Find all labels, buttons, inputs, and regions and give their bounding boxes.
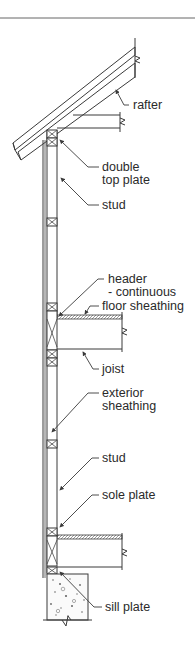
label-header-line1: header bbox=[108, 272, 147, 286]
label-joist: joist bbox=[101, 362, 125, 376]
wall-section-diagram: rafter double top plate stud header - co… bbox=[0, 0, 195, 662]
label-header-line2: - continuous bbox=[108, 285, 176, 299]
label-double-top-plate-line1: double bbox=[102, 160, 140, 174]
foundation bbox=[43, 574, 92, 626]
label-rafter: rafter bbox=[133, 98, 162, 112]
label-floor-sheathing: floor sheathing bbox=[102, 299, 184, 313]
label-sole-plate: sole plate bbox=[102, 488, 156, 502]
lower-floor bbox=[47, 528, 127, 574]
label-stud-upper: stud bbox=[102, 198, 126, 212]
blocking-lower bbox=[47, 440, 57, 448]
label-stud-lower: stud bbox=[102, 451, 126, 465]
blocking-upper bbox=[47, 218, 57, 226]
label-exterior-sheathing-line2: sheathing bbox=[102, 399, 156, 413]
double-top-plate bbox=[47, 130, 57, 146]
label-double-top-plate-line2: top plate bbox=[102, 173, 150, 187]
label-exterior-sheathing-line1: exterior bbox=[102, 386, 144, 400]
label-sill-plate: sill plate bbox=[105, 600, 150, 614]
